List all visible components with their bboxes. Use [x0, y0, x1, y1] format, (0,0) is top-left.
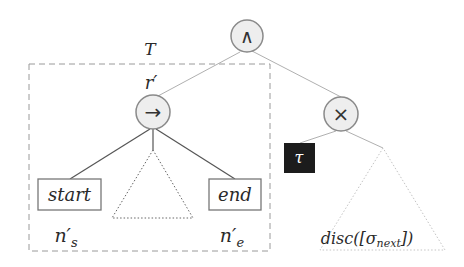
- edge-and-seq: [158, 52, 240, 96]
- end-leaf: end: [209, 179, 261, 210]
- end-node-name: n′e: [220, 224, 245, 250]
- region-T-label: T: [144, 39, 157, 59]
- edge-xor-disc: [346, 131, 383, 148]
- edge-and-xor: [252, 51, 341, 97]
- and-node: ∧: [231, 20, 263, 52]
- seq-node-label: r′: [145, 72, 158, 93]
- tau-leaf: τ: [284, 143, 315, 173]
- end-label: end: [218, 184, 252, 205]
- and-symbol: ∧: [240, 25, 254, 47]
- edge-seq-start: [70, 129, 150, 179]
- times-symbol: ×: [333, 102, 350, 126]
- start-node-name: n′s: [54, 224, 78, 250]
- start-leaf: start: [38, 179, 101, 210]
- arrow-symbol: →: [145, 100, 162, 124]
- edge-xor-tau: [300, 131, 336, 143]
- tau-label: τ: [295, 148, 305, 167]
- edge-seq-end: [156, 129, 235, 179]
- xor-node: ×: [324, 97, 358, 131]
- middle-subtree-triangle: [112, 150, 193, 218]
- process-tree-diagram: ∧ T r′ → × start n′s end n′e τ disc([σne…: [0, 0, 464, 267]
- start-label: start: [48, 184, 92, 205]
- disc-label: disc([σnext]): [321, 229, 414, 250]
- sequence-node: →: [136, 95, 170, 129]
